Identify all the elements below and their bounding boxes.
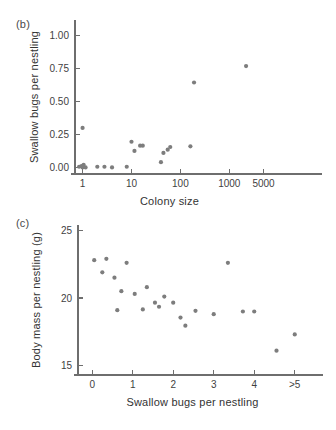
data-point [183, 324, 187, 328]
data-point [112, 276, 116, 280]
y-tick-label: 0.25 [50, 129, 70, 140]
data-point [171, 301, 175, 305]
data-point [188, 144, 192, 148]
x-tick-label: 1000 [218, 178, 241, 189]
panel-c-scatter: (c) 15202501234>5Swallow bugs per nestli… [0, 205, 336, 430]
data-point [159, 160, 163, 164]
data-point [119, 289, 123, 293]
data-point [193, 309, 197, 313]
y-tick-label: 0.50 [50, 96, 70, 107]
data-point [80, 126, 84, 130]
x-tick-label: 3 [211, 379, 217, 390]
data-point [83, 165, 87, 169]
y-tick-label: 1.00 [50, 30, 70, 41]
x-tick-label: 100 [172, 178, 189, 189]
data-point [115, 308, 119, 312]
data-point [212, 312, 216, 316]
data-point [244, 64, 248, 68]
data-point [241, 309, 245, 313]
y-tick-label: 15 [61, 360, 73, 371]
data-point [95, 165, 99, 169]
data-point [125, 165, 129, 169]
data-point [141, 307, 145, 311]
data-point [178, 315, 182, 319]
data-point [125, 261, 129, 265]
data-point [110, 165, 114, 169]
data-point [104, 257, 108, 261]
y-axis-title: Body mass per nestling (g) [30, 232, 42, 368]
x-axis-title: Swallow bugs per nestling [126, 396, 258, 408]
data-point [100, 270, 104, 274]
data-point [274, 349, 278, 353]
data-point [226, 261, 230, 265]
data-point [252, 309, 256, 313]
data-point [161, 151, 165, 155]
panel-b-plot: 0.000.250.500.751.0011010010005000Colony… [0, 0, 336, 215]
y-tick-label: 25 [61, 225, 73, 236]
data-point [157, 305, 161, 309]
panel-c-plot: 15202501234>5Swallow bugs per nestlingBo… [0, 205, 336, 430]
data-point [145, 285, 149, 289]
data-point [153, 301, 157, 305]
data-point [129, 140, 133, 144]
y-tick-label: 0.00 [50, 162, 70, 173]
data-point [168, 145, 172, 149]
x-tick-label: 1 [80, 178, 86, 189]
x-tick-label: 2 [170, 379, 176, 390]
data-point [141, 144, 145, 148]
y-tick-label: 0.75 [50, 63, 70, 74]
x-tick-label: 1 [130, 379, 136, 390]
data-point [102, 165, 106, 169]
x-tick-label: >5 [289, 379, 301, 390]
x-tick-label: 5000 [252, 178, 275, 189]
x-tick-label: 10 [126, 178, 138, 189]
data-point [192, 80, 196, 84]
x-tick-label: 4 [251, 379, 257, 390]
data-point [293, 332, 297, 336]
y-axis-title: Swallow bugs per nestling [28, 31, 40, 163]
data-point [92, 258, 96, 262]
data-point [133, 292, 137, 296]
data-point [162, 295, 166, 299]
panel-b-scatter: (b) 0.000.250.500.751.0011010010005000Co… [0, 0, 336, 215]
y-tick-label: 20 [61, 293, 73, 304]
x-tick-label: 0 [89, 379, 95, 390]
data-point [132, 149, 136, 153]
